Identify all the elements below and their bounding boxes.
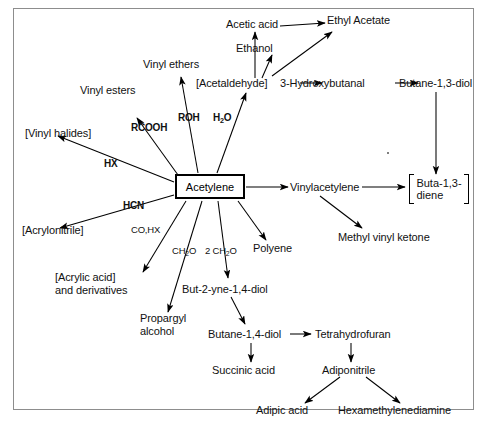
node-butadiene-text: Buta-1,3- diene (414, 177, 463, 202)
node-acetic-acid[interactable]: Acetic acid (226, 18, 278, 30)
node-methyl-vinyl-ketone[interactable]: Methyl vinyl ketone (338, 231, 430, 243)
node-butane-13-diol[interactable]: Butane-1,3-diol (399, 77, 472, 89)
node-3-hydroxybutanal[interactable]: 3-Hydroxybutanal (280, 77, 365, 89)
reagent-hx: HX (104, 158, 118, 170)
node-succinic-acid[interactable]: Succinic acid (212, 364, 275, 376)
node-hexamethylenediamine[interactable]: Hexamethylenediamine (338, 404, 451, 416)
arrow-acetic-acid-to-ethyl-acetate (280, 23, 325, 26)
reagent-roh: ROH (178, 112, 200, 124)
scan-speck (387, 152, 389, 154)
reagent-hcn: HCN (123, 200, 144, 212)
node-butadiene[interactable]: Buta-1,3- diene (408, 174, 470, 204)
arrow-adiponitrile-to-hmda (366, 377, 400, 403)
node-adiponitrile[interactable]: Adiponitrile (322, 364, 375, 376)
arrow-acetylene-to-vinyl-ethers (181, 77, 198, 173)
diagram-canvas: Acetylene Acetic acid Ethyl Acetate Etha… (0, 0, 490, 440)
node-acrylic-acid[interactable]: [Acrylic acid] and derivatives (55, 271, 147, 296)
node-butyne-diol[interactable]: But-2-yne-1,4-diol (182, 283, 268, 295)
node-propargyl-alcohol[interactable]: Propargyl alcohol (140, 312, 206, 337)
arrow-acetylene-to-polyene (238, 201, 266, 240)
node-acrylonitrile[interactable]: [Acrylonitrile] (22, 224, 83, 236)
arrow-acetylene-to-butyne-diol (218, 201, 228, 278)
reagent-2ch2o: 2 CH2O (205, 245, 237, 260)
reagent-ch2o: CH2O (172, 245, 196, 260)
node-ethanol[interactable]: Ethanol (236, 42, 273, 54)
node-ethyl-acetate[interactable]: Ethyl Acetate (327, 14, 390, 26)
node-vinyl-halides[interactable]: [Vinyl halides] (25, 127, 91, 139)
node-acetylene[interactable]: Acetylene (175, 174, 245, 199)
arrow-acetaldehyde-to-ethanol (262, 55, 272, 78)
arrow-acetylene-to-acetaldehyde (217, 93, 246, 173)
node-propargyl-line2: alcohol (140, 325, 206, 338)
arrow-acetylene-to-acrylic-acid (143, 201, 186, 272)
arrow-acetaldehyde-to-ethyl-acetate (272, 32, 332, 76)
node-acrylic-acid-line2: and derivatives (55, 284, 147, 297)
node-butadiene-line1: Buta-1,3- (416, 177, 461, 190)
node-butadiene-line2: diene (416, 189, 461, 202)
node-vinyl-ethers[interactable]: Vinyl ethers (143, 58, 199, 70)
node-thf[interactable]: Tetrahydrofuran (315, 328, 391, 340)
node-polyene[interactable]: Polyene (253, 242, 292, 254)
bracket-right (464, 174, 469, 204)
arrow-adiponitrile-to-adipic-acid (305, 377, 340, 403)
node-butane-14-diol[interactable]: Butane-1,4-diol (208, 328, 281, 340)
node-acetaldehyde[interactable]: [Acetaldehyde] (196, 77, 267, 89)
node-propargyl-line1: Propargyl (140, 312, 206, 325)
node-vinylacetylene[interactable]: Vinylacetylene (290, 181, 359, 193)
node-adipic-acid[interactable]: Adipic acid (256, 404, 308, 416)
reagent-cohx: CO,HX (131, 224, 160, 236)
node-vinyl-esters[interactable]: Vinyl esters (80, 84, 135, 96)
reagent-h2o: H2O (213, 112, 231, 127)
reagent-rcooh: RCOOH (131, 122, 167, 134)
node-acetylene-label: Acetylene (186, 181, 234, 193)
node-acrylic-acid-line1: [Acrylic acid] (55, 271, 147, 284)
arrow-butyne-diol-to-butane-14-diol (231, 297, 245, 324)
arrow-vinylacetylene-to-methyl-vinyl-ketone (320, 196, 362, 228)
